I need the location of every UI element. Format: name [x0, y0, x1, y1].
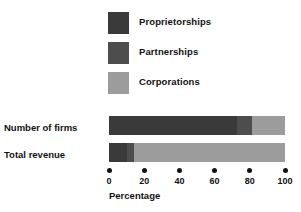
bar-segment	[109, 116, 237, 135]
x-axis-tick-dot	[107, 168, 112, 173]
x-axis-tick-dot	[247, 168, 252, 173]
x-axis-title: Percentage	[109, 190, 160, 201]
plot-area: Number of firms Total revenue 0204060801…	[0, 0, 301, 212]
bar-segment	[134, 143, 285, 162]
bar-segment	[127, 143, 134, 162]
bar-total-revenue	[109, 143, 285, 162]
x-axis-tick-dot	[283, 168, 288, 173]
x-axis-tick-label: 80	[235, 176, 265, 186]
x-axis-tick-dot	[177, 168, 182, 173]
x-axis-tick-label: 40	[164, 176, 194, 186]
x-axis-tick-label: 100	[270, 176, 300, 186]
stacked-bar-chart: Proprietorships Partnerships Corporation…	[0, 0, 301, 212]
x-axis-tick-dot	[142, 168, 147, 173]
bar-segment	[109, 143, 127, 162]
x-axis-tick-dot	[212, 168, 217, 173]
row-label-total-revenue: Total revenue	[4, 149, 65, 160]
x-axis-tick-label: 60	[200, 176, 230, 186]
bar-number-of-firms	[109, 116, 285, 135]
bar-segment	[237, 116, 251, 135]
x-axis-tick-label: 20	[129, 176, 159, 186]
row-label-number-of-firms: Number of firms	[4, 122, 77, 133]
x-axis-tick-label: 0	[94, 176, 124, 186]
bar-segment	[252, 116, 285, 135]
